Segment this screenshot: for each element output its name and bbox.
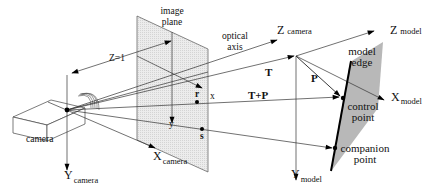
image-x-label: x (210, 91, 215, 101)
image-y-label: y (169, 119, 174, 129)
point-r (195, 100, 199, 104)
control-point-label-2: point (352, 111, 375, 123)
vector-T-label: T (265, 66, 273, 78)
image-plane-label-1: image (160, 6, 183, 16)
vector-P (296, 56, 340, 96)
control-point (341, 96, 345, 100)
point-s-label: s (200, 131, 204, 141)
model-edge-label-2: edge (352, 56, 373, 68)
y-camera-label: Ycamera (64, 168, 98, 185)
camera-label: camera (26, 134, 54, 144)
z-camera-label: Zcamera (277, 23, 312, 37)
projection-diagram: image plane optical axis Z=1 Zcamera Zmo… (0, 0, 434, 195)
image-plane-label-2: plane (162, 17, 183, 27)
companion-point-label-2: point (354, 153, 377, 165)
focal-point (65, 108, 70, 113)
optical-axis-label-2: axis (227, 42, 243, 52)
companion-point (333, 146, 337, 150)
vector-T-plus-P-label: T+P (248, 89, 269, 101)
y-model-label: Ymodel (291, 167, 323, 184)
optical-axis-label-1: optical (222, 31, 248, 41)
x-model-label: Xmodel (391, 90, 423, 106)
z-model-label: Zmodel (390, 23, 422, 37)
vector-P-label: P (311, 72, 318, 84)
z-equals-1-label: Z=1 (109, 53, 125, 63)
